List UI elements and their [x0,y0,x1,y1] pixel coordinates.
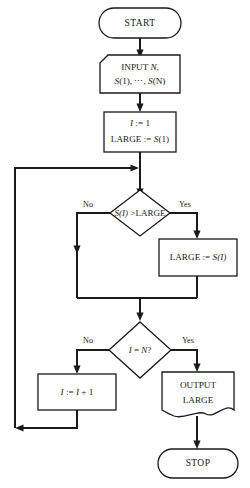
node-decision2-label: I = N? [128,345,152,355]
node-decision1-label: S(I) >LARGE [115,208,166,218]
decision1-no-label: No [83,200,93,209]
flowchart-canvas: START INPUT N, S(1), ⋯, S(N) I := 1 LARG… [0,0,250,488]
edge-decision1-yes [167,213,201,239]
edge-output-to-stop [193,416,200,449]
node-input-line1: INPUT N, [121,62,159,72]
node-increment[interactable]: I := I + 1 [38,374,116,410]
edge-decision2-yes [168,350,201,372]
flowchart-svg: START INPUT N, S(1), ⋯, S(N) I := 1 LARG… [0,0,250,488]
node-output[interactable]: OUTPUT LARGE [162,372,234,417]
node-input-line2: S(1), ⋯, S(N) [115,76,166,86]
decision1-yes-label: Yes [179,200,191,209]
edge-decision2-no [73,350,112,374]
edge-merge-to-decision2 [77,298,197,321]
node-init-line1: I := 1 [129,118,150,128]
edge-increment-to-loopback [15,410,77,432]
node-start-label: START [125,18,156,28]
decision2-no-label: No [83,336,93,345]
node-output-line2: LARGE [183,395,214,405]
edge-decision1-no [73,213,113,298]
node-stop-label: STOP [186,458,211,468]
node-start[interactable]: START [99,8,181,38]
decision2-yes-label: Yes [182,336,194,345]
node-output-line1: OUTPUT [180,380,217,390]
node-init-line2: LARGE := S(1) [111,134,169,144]
edge-input-to-init [136,93,143,112]
node-input[interactable]: INPUT N, S(1), ⋯, S(N) [100,55,180,93]
node-assign-large[interactable]: LARGE := S(I) [159,239,237,276]
node-assign-large-label: LARGE := S(I) [170,252,227,262]
node-stop[interactable]: STOP [158,449,238,478]
node-init[interactable]: I := 1 LARGE := S(1) [104,112,176,152]
node-increment-label: I := I + 1 [60,387,94,397]
